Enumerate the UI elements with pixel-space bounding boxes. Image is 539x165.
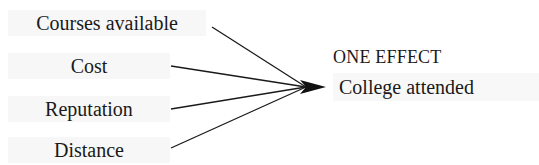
arrow-line-distance	[171, 87, 306, 148]
effect-heading: ONE EFFECT	[333, 46, 442, 68]
arrow-line-reputation	[171, 87, 306, 109]
effect-label: College attended	[339, 76, 474, 98]
effect-box: College attended	[333, 73, 539, 101]
arrow-line-courses	[212, 27, 306, 87]
arrow-line-cost	[171, 66, 306, 87]
